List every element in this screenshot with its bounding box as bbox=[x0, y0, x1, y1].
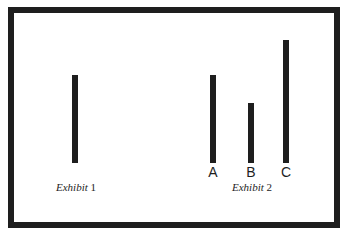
exhibit2-line-b bbox=[248, 103, 254, 163]
exhibit2-caption: Exhibit 2 bbox=[232, 181, 272, 193]
exhibit2-line-a bbox=[210, 75, 216, 163]
diagram-frame bbox=[8, 7, 340, 228]
exhibit1-caption: Exhibit 1 bbox=[56, 181, 96, 193]
exhibit2-label-a: A bbox=[203, 165, 223, 179]
exhibit2-caption-number: 2 bbox=[267, 181, 273, 193]
exhibit1-caption-word: Exhibit bbox=[56, 181, 88, 193]
exhibit2-label-c: C bbox=[276, 165, 296, 179]
exhibit1-caption-number: 1 bbox=[91, 181, 97, 193]
exhibit1-standard-line bbox=[72, 75, 78, 163]
exhibit2-caption-word: Exhibit bbox=[232, 181, 264, 193]
exhibit2-line-c bbox=[283, 40, 289, 163]
exhibit2-label-b: B bbox=[241, 165, 261, 179]
